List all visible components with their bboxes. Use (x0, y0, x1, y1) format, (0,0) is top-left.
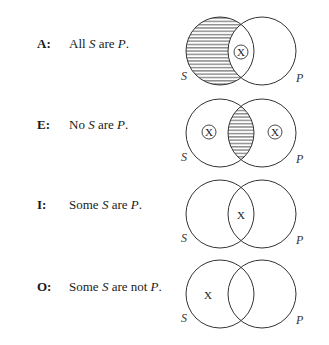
proposition-letter: O: (37, 280, 51, 293)
proposition-letter: I: (37, 198, 46, 211)
proposition-a-row: A: All S are P. (0, 0, 329, 82)
proposition-statement: No S are P. (69, 118, 128, 131)
proposition-i-row: I: Some S are P. (0, 164, 329, 246)
proposition-letter: A: (37, 37, 51, 50)
proposition-statement: All S are P. (69, 37, 129, 50)
proposition-statement: Some S are P. (69, 198, 142, 211)
proposition-o-row: O: Some S are not P. (0, 246, 329, 328)
proposition-letter: E: (37, 118, 50, 131)
proposition-statement: Some S are not P. (69, 280, 162, 293)
proposition-e-row: E: No S are P. (0, 82, 329, 164)
